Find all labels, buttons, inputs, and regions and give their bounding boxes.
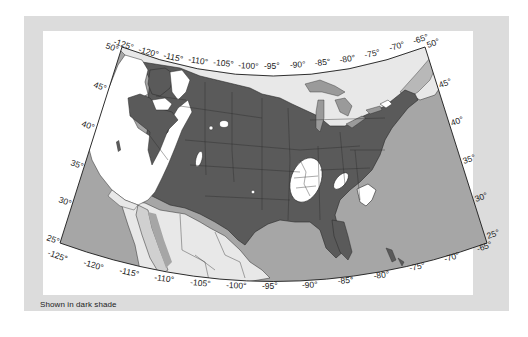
excluded-pocket-black-hills [220, 121, 229, 128]
lon-top-75: -75° [363, 47, 380, 60]
lon-top-95: -95° [264, 61, 280, 71]
figure-caption: Shown in dark shade [40, 300, 117, 309]
map-canvas: -125° -120° -115° -110° -105° -100° -95°… [0, 0, 528, 337]
lon-bottom-125: -125° [46, 247, 69, 263]
lat-left-40: 40° [80, 118, 96, 132]
excluded-pocket-small-1 [209, 126, 213, 130]
excluded-pocket-oklahoma [251, 190, 255, 194]
lon-top-105: -105° [213, 57, 234, 69]
lon-bottom-95: -95° [262, 281, 278, 291]
lon-bottom-115: -115° [119, 265, 140, 279]
lon-bottom-120: -120° [82, 257, 104, 272]
lon-top-110: -110° [188, 54, 209, 67]
lon-top-100: -100° [238, 60, 259, 71]
lon-bottom-90: -90° [302, 279, 318, 290]
lon-top-80: -80° [339, 53, 356, 65]
lat-left-25: 25° [45, 232, 61, 246]
lon-bottom-80: -80° [373, 269, 390, 281]
lon-bottom-75: -75° [408, 260, 425, 273]
lon-top-90: -90° [290, 59, 306, 70]
lat-right-30: 30° [473, 190, 489, 204]
lat-left-35: 35° [69, 157, 85, 171]
lon-top-85: -85° [314, 56, 331, 68]
lat-right-40: 40° [449, 114, 465, 128]
lat-right-25: 25° [485, 227, 501, 241]
lat-right-35: 35° [461, 152, 477, 166]
lon-top-70: -70° [388, 39, 406, 53]
lat-right-45: 45° [437, 76, 453, 90]
lon-bottom-105: -105° [190, 277, 211, 289]
lon-bottom-85: -85° [337, 275, 353, 286]
lon-bottom-100: -100° [226, 280, 247, 291]
lat-left-30: 30° [57, 194, 73, 208]
lon-bottom-110: -110° [154, 272, 175, 285]
lat-left-45: 45° [92, 79, 108, 93]
